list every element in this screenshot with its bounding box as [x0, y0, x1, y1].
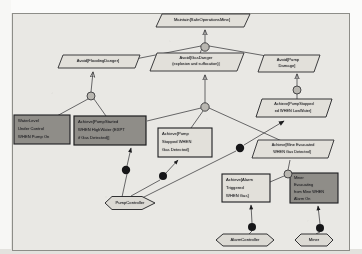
node-layer [14, 14, 338, 246]
diagram-screenshot: Maintain[SafeOperationsMine] Avoid[Flood… [0, 0, 362, 254]
agent-pump-controller[interactable] [105, 197, 155, 210]
refinement-node-gas[interactable] [201, 103, 209, 111]
requirement-water-level-under-control[interactable] [14, 115, 70, 144]
requirement-achieve-alarm-triggered[interactable] [222, 174, 270, 202]
edge-pumpctrl-to-resp1 [122, 174, 127, 197]
requirement-achieve-pump-stopped-gas[interactable] [158, 128, 212, 157]
goal-avoid-flooding-danger[interactable] [58, 55, 140, 68]
agent-miner[interactable] [295, 234, 333, 246]
responsibility-link-miner-evacuating[interactable] [316, 224, 324, 232]
refinement-node-pump[interactable] [293, 86, 301, 94]
responsibility-link-alarm-triggered[interactable] [248, 223, 256, 231]
edge-resp4-to-alarmreq [251, 205, 252, 223]
refinement-node-evac[interactable] [284, 170, 292, 178]
edge-pumpstarted-to-refflood [94, 99, 106, 116]
refinement-node-flooding[interactable] [87, 92, 95, 100]
edge-refevac-to-evac [288, 160, 290, 170]
goal-avoid-pump-damage[interactable] [258, 55, 320, 72]
edge-resp2-to-pumpstoppedgas [166, 160, 178, 173]
agent-alarm-controller[interactable] [216, 234, 274, 246]
goal-achieve-pump-stopped-when-low-water[interactable] [256, 99, 332, 117]
goal-model-canvas [0, 0, 362, 254]
edge-alarm-to-refevac [270, 176, 284, 182]
requirement-achieve-pump-started[interactable] [74, 116, 146, 145]
responsibility-link-pump-stopped-gas[interactable] [159, 172, 167, 180]
responsibility-link-pump-started[interactable] [122, 166, 130, 174]
expectation-miner-evacuating[interactable] [290, 173, 338, 203]
goal-achieve-mine-evacuated-when-gas-detected[interactable] [252, 140, 334, 158]
edge-resp5-to-minerexp [318, 206, 320, 224]
edge-pumpstarted-to-refgas [147, 108, 201, 121]
edge-resp1-to-pumpstarted [127, 148, 131, 166]
refinement-node-root[interactable] [201, 43, 209, 51]
edge-pumpstoppedgas-to-refgas [191, 111, 203, 128]
edge-pumpctrl-to-resp2 [131, 180, 160, 196]
goal-maintain-safe-operations-mine[interactable] [156, 14, 250, 27]
responsibility-link-pump-stopped-low[interactable] [236, 144, 244, 152]
edge-waterlevel-to-refflood [55, 99, 88, 117]
edge-refflood-to-flooding [91, 72, 93, 92]
goal-avoid-gas-danger[interactable] [150, 53, 244, 71]
